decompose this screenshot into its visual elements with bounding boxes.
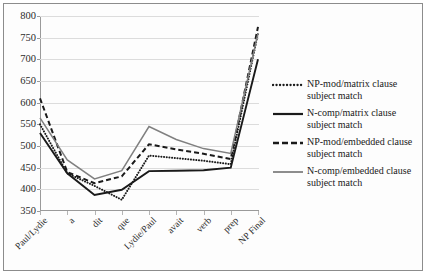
y-tick-label: 400: [20, 184, 36, 195]
legend-label: NP-mod/embedded clause subject match: [307, 136, 418, 159]
y-tick-label: 350: [20, 206, 36, 217]
legend-item[interactable]: NP-mod/embedded clause subject match: [272, 136, 418, 159]
x-tick-mark: [258, 211, 259, 215]
series-lines-group: [40, 16, 259, 211]
x-tick-label: NP Final: [237, 216, 268, 247]
series-line-3: [40, 27, 258, 183]
legend-item[interactable]: N-comp/matrix clause subject match: [272, 107, 418, 130]
y-tick-label: 600: [20, 97, 36, 108]
y-tick-label: 500: [20, 141, 36, 152]
plot-area: 350400450500550600650700750800 Paul/Lydi…: [40, 16, 259, 211]
dotted-line-swatch: [272, 79, 304, 91]
x-tick-label: dit: [90, 216, 104, 230]
dashed-line-swatch: [272, 137, 304, 149]
y-tick-label: 700: [20, 54, 36, 65]
x-tick-mark: [176, 211, 177, 215]
x-tick-mark: [95, 211, 96, 215]
legend-label: N-comp/embedded clause subject match: [307, 165, 418, 188]
y-tick-label: 550: [20, 119, 36, 130]
y-tick-label: 800: [20, 11, 36, 22]
solid-line-swatch: [272, 108, 304, 120]
x-tick-label: a: [67, 216, 77, 226]
legend-item[interactable]: N-comp/embedded clause subject match: [272, 165, 418, 188]
x-tick-label: prep: [222, 216, 241, 235]
x-tick-label: verb: [195, 216, 214, 235]
x-tick-mark: [67, 211, 68, 215]
x-tick-label: que: [115, 216, 131, 232]
x-tick-label: Paul/Lydie: [14, 216, 50, 252]
legend-item[interactable]: NP-mod/matrix clause subject match: [272, 78, 418, 101]
x-tick-mark: [204, 211, 205, 215]
y-tick-label: 450: [20, 162, 36, 173]
x-tick-mark: [231, 211, 232, 215]
x-tick-mark: [122, 211, 123, 215]
legend-label: N-comp/matrix clause subject match: [307, 107, 418, 130]
x-tick-mark: [149, 211, 150, 215]
legend-label: NP-mod/matrix clause subject match: [307, 78, 418, 101]
chart-legend: NP-mod/matrix clause subject matchN-comp…: [272, 78, 418, 194]
x-tick-mark: [40, 211, 41, 215]
gray-line-swatch: [272, 166, 304, 178]
x-tick-label: avait: [166, 216, 186, 236]
chart-figure: 350400450500550600650700750800 Paul/Lydi…: [3, 3, 423, 271]
y-tick-label: 650: [20, 76, 36, 87]
y-tick-label: 750: [20, 32, 36, 43]
